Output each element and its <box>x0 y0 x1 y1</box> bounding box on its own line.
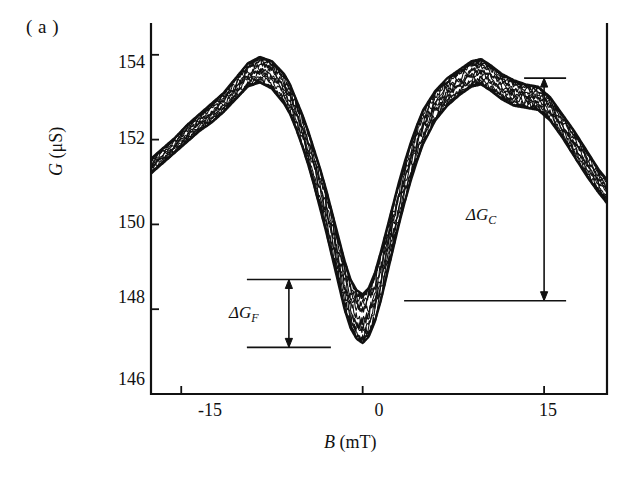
delta-g-f-arrowhead-bottom <box>285 338 292 347</box>
delta-g-c-arrowhead-top <box>541 78 548 87</box>
lower-envelope-curve <box>151 82 607 343</box>
figure-panel: ( a ) G (μS) B (mT) 154 152 150 148 146 … <box>0 0 637 494</box>
plot-svg <box>0 0 637 494</box>
conductance-trace <box>151 80 607 342</box>
conductance-trace <box>151 58 607 303</box>
delta-g-c-arrowhead-bottom <box>541 292 548 301</box>
delta-g-f-arrowhead-top <box>285 280 292 289</box>
